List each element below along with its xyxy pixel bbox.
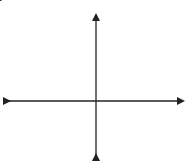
coordinate-plane bbox=[0, 0, 192, 161]
